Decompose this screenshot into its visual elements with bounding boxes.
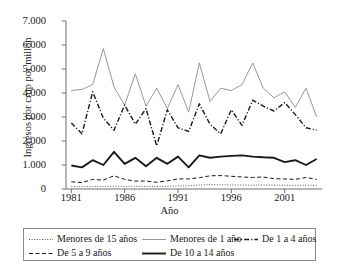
chart-figure: Ingresos por crup por millón 01.0002.000… <box>0 0 339 272</box>
series-line <box>71 152 316 168</box>
legend-item[interactable]: De 1 a 4 años <box>233 231 316 246</box>
legend-label: De 10 a 14 años <box>170 247 234 258</box>
legend-label: Menores de 15 años <box>57 233 137 244</box>
legend-item[interactable]: Menores de 15 años <box>28 231 137 246</box>
legend-swatch-icon <box>233 234 259 243</box>
legend-label: Menores de 1 año <box>170 233 241 244</box>
legend-label: De 1 a 4 años <box>262 233 316 244</box>
series-line <box>71 92 316 146</box>
legend-label: De 5 a 9 años <box>57 247 111 258</box>
x-axis-title: Año <box>0 205 339 216</box>
legend-swatch-icon <box>141 248 167 257</box>
legend-item[interactable]: Menores de 1 año <box>141 231 241 246</box>
legend-row-2: De 5 a 9 añosDe 10 a 14 años <box>28 245 311 259</box>
legend-swatch-icon <box>28 248 54 257</box>
legend-row-1: Menores de 15 añosMenores de 1 añoDe 1 a… <box>28 231 311 245</box>
legend-swatch-icon <box>28 234 54 243</box>
legend-item[interactable]: De 10 a 14 años <box>141 245 234 260</box>
series-line <box>71 176 316 183</box>
legend-swatch-icon <box>141 234 167 243</box>
chart-legend: Menores de 15 añosMenores de 1 añoDe 1 a… <box>23 228 316 261</box>
series-line <box>71 185 316 187</box>
legend-item[interactable]: De 5 a 9 años <box>28 245 111 260</box>
